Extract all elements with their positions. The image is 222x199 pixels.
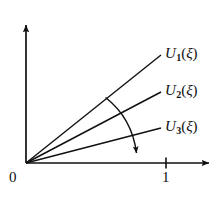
curve-label-u3: U3(ξ) xyxy=(165,119,198,136)
curve-label-u3-symbol: U xyxy=(165,118,176,134)
curve-label-u3-close-paren: ) xyxy=(193,118,198,134)
curve-label-u1: U1(ξ) xyxy=(165,46,198,63)
curve-label-u1-symbol: U xyxy=(165,45,176,61)
curve-label-u2: U2(ξ) xyxy=(165,83,198,100)
x-tick-label-one: 1 xyxy=(162,170,170,185)
sweep-arc-arrow xyxy=(106,98,137,154)
curve-label-u2-symbol: U xyxy=(165,82,176,98)
curve-line-u2 xyxy=(26,92,161,163)
curve-line-u1 xyxy=(26,55,161,163)
curve-line-u3 xyxy=(26,128,161,163)
origin-label: 0 xyxy=(9,170,17,185)
curve-label-u2-close-paren: ) xyxy=(193,82,198,98)
figure-canvas: U1(ξ) U2(ξ) U3(ξ) 0 1 xyxy=(0,0,222,199)
curve-label-u1-close-paren: ) xyxy=(193,45,198,61)
